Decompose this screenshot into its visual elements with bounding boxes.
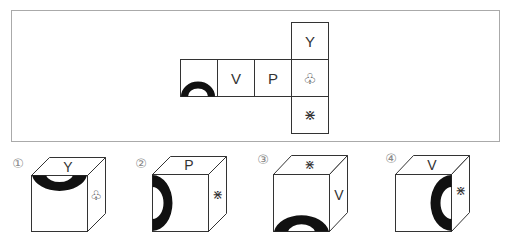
option-number: ① xyxy=(12,156,24,171)
option-2[interactable]: ② P ⋇ xyxy=(135,156,226,232)
star-icon: ⋇ xyxy=(213,187,224,202)
net-label-y: Y xyxy=(305,33,315,50)
net-label-p: P xyxy=(268,70,278,87)
net-label-v: V xyxy=(231,70,241,87)
option-1[interactable]: ① Y ♧ xyxy=(12,156,105,232)
puzzle-figure: V P ♧ Y ⋇ ① Y ♧ ② P ⋇ ③ ⋇ xyxy=(0,0,506,245)
option-4[interactable]: ④ V ⋇ xyxy=(385,151,469,232)
right-label: V xyxy=(334,187,344,203)
top-label: P xyxy=(184,157,193,173)
star-icon: ⋇ xyxy=(305,157,316,172)
option-3[interactable]: ③ ⋇ V xyxy=(257,152,347,232)
star-icon: ⋇ xyxy=(456,183,467,198)
option-number: ② xyxy=(135,156,147,171)
top-label: Y xyxy=(63,159,73,175)
club-icon: ♧ xyxy=(303,70,316,87)
star-icon: ⋇ xyxy=(304,106,317,123)
club-icon: ♧ xyxy=(90,188,102,203)
top-label: V xyxy=(427,157,437,173)
option-number: ③ xyxy=(257,152,269,167)
option-number: ④ xyxy=(385,151,397,166)
